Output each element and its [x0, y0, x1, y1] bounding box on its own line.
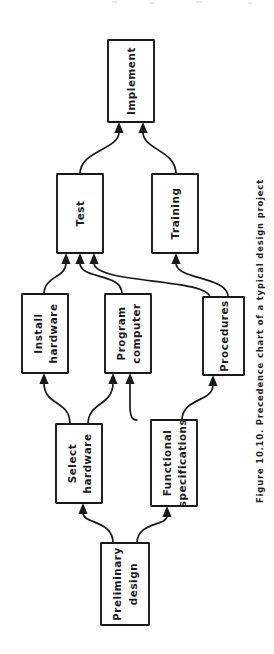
edge-training-to-implement [138, 122, 176, 174]
edge-prelim-to-select-hw [78, 503, 113, 543]
edge-test-to-implement [80, 122, 124, 174]
figure-root: Implement Test Training Install hardware… [0, 0, 274, 654]
node-label-select-hardware-line2: hardware [81, 433, 93, 493]
node-training[interactable]: Training [152, 174, 198, 253]
edge-program-comp-to-test [75, 253, 122, 294]
edge-procedures-to-training [171, 253, 228, 297]
edge-prelim-to-func-spec [137, 506, 172, 543]
node-preliminary-design[interactable]: Preliminary design [101, 543, 149, 625]
node-install-hardware[interactable]: Install hardware [22, 294, 68, 373]
node-label-install-hardware-line1: Install [32, 313, 44, 353]
node-label-program-computer-line1: Program [115, 306, 127, 360]
node-select-hardware[interactable]: Select hardware [56, 424, 102, 503]
node-label-preliminary-design-line2: design [127, 563, 139, 605]
node-label-select-hardware-line1: Select [66, 444, 78, 484]
node-label-preliminary-design-line1: Preliminary [111, 547, 123, 621]
node-program-computer[interactable]: Program computer [105, 294, 151, 373]
figure-caption: Figure 10.10. Precedence chart of a typi… [255, 179, 265, 503]
node-label-procedures: Procedures [218, 300, 230, 372]
node-label-install-hardware-line2: hardware [47, 303, 59, 363]
scan-artifacts [112, 1, 252, 4]
edge-install-hw-to-test [44, 253, 71, 294]
node-label-implement: Implement [125, 47, 137, 115]
edge-select-hw-to-program-comp [88, 373, 118, 424]
node-label-functional-specifications-line2: specifications [176, 419, 188, 508]
node-label-test: Test [74, 200, 86, 226]
edge-func-spec-to-procedures [182, 375, 218, 420]
node-label-training: Training [169, 188, 181, 240]
edge-func-spec-to-program-comp [125, 373, 137, 420]
node-implement[interactable]: Implement [108, 40, 154, 122]
edge-select-hw-to-install-hw [39, 373, 70, 424]
node-label-program-computer-line2: computer [130, 303, 142, 364]
node-functional-specifications[interactable]: Functional specifications [151, 419, 197, 508]
precedence-chart: Implement Test Training Install hardware… [0, 0, 274, 654]
node-procedures[interactable]: Procedures [203, 297, 244, 375]
node-layer: Implement Test Training Install hardware… [22, 40, 244, 625]
node-label-functional-specifications-line1: Functional [161, 430, 173, 497]
node-test[interactable]: Test [57, 174, 103, 253]
